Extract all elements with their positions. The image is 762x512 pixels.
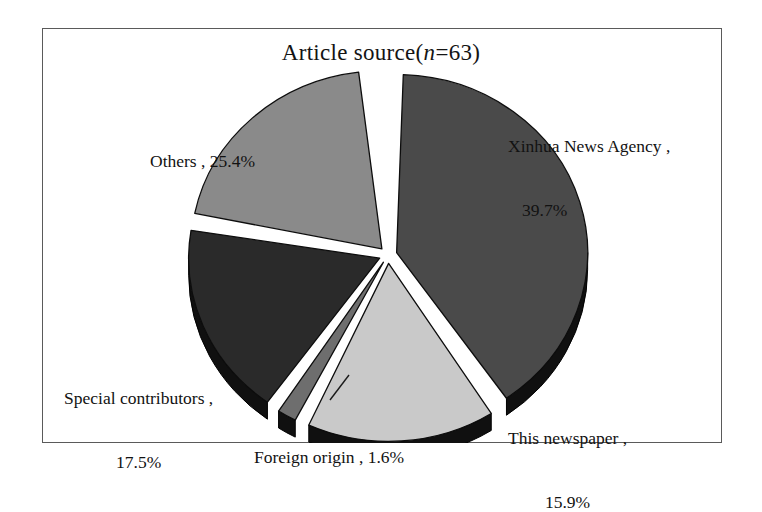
slice-label-line: This newspaper , [508,428,627,449]
slice-label-line: Special contributors , [64,388,213,409]
slice-label-line: Others , 25.4% [150,151,255,172]
slice-label-line: Foreign origin , 1.6% [254,447,404,468]
slice-label-special-contributors: Special contributors , 17.5% [64,345,213,494]
slice-label-xinhua-news-agency: Xinhua News Agency , 39.7% [508,93,670,242]
slice-label-others: Others , 25.4% [150,108,255,193]
slice-label-foreign-origin: Foreign origin , 1.6% [254,404,404,489]
slice-value-line: 15.9% [508,492,627,512]
slice-label-this-newspaper: This newspaper , 15.9% [508,385,627,512]
slice-value-line: 39.7% [508,200,670,221]
slice-label-line: Xinhua News Agency , [508,136,670,157]
slice-value-line: 17.5% [64,452,213,473]
